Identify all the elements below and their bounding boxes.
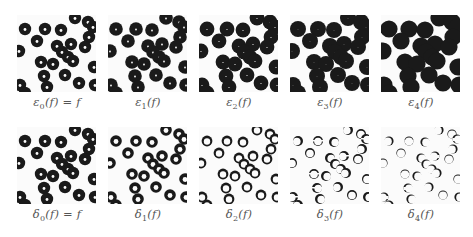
erosion-row-panel-0 (17, 15, 96, 92)
dilation-row-caption-4: δ4(f) (371, 207, 471, 223)
dilation-row-panel-0 (17, 127, 96, 204)
caption-argument: (f) (238, 95, 252, 109)
erosion-row-panel-3 (290, 15, 369, 92)
caption-argument: (f) (420, 95, 434, 109)
caption-argument: (f) = f (45, 207, 81, 221)
erosion-row-caption-1: ε1(f) (98, 95, 198, 111)
erosion-row-panel-1 (108, 15, 187, 92)
dilation-row-panel-2 (199, 127, 278, 204)
dilation-row-panel-1 (108, 127, 187, 204)
caption-argument: (f) (147, 207, 161, 221)
dilation-row-caption-3: δ3(f) (280, 207, 380, 223)
erosion-row-panel-2 (199, 15, 278, 92)
dilation-row-panel-4 (381, 127, 460, 204)
dilation-row-caption-1: δ1(f) (98, 207, 198, 223)
caption-symbol: δ (317, 207, 324, 221)
dilation-row-caption-2: δ2(f) (189, 207, 289, 223)
dilation-row-panel-3 (290, 127, 369, 204)
erosion-row-caption-2: ε2(f) (189, 95, 289, 111)
caption-argument: (f) (329, 207, 343, 221)
erosion-row-caption-3: ε3(f) (280, 95, 380, 111)
caption-argument: (f) (147, 95, 161, 109)
caption-symbol: δ (135, 207, 142, 221)
caption-argument: (f) (420, 207, 434, 221)
caption-symbol: δ (226, 207, 233, 221)
caption-symbol: δ (33, 207, 40, 221)
erosion-row-panel-4 (381, 15, 460, 92)
dilation-row-caption-0: δ0(f) = f (7, 207, 107, 223)
caption-argument: (f) (238, 207, 252, 221)
erosion-row-caption-4: ε4(f) (371, 95, 471, 111)
caption-argument: (f) = f (45, 95, 81, 109)
caption-symbol: δ (408, 207, 415, 221)
erosion-row-caption-0: ε0(f) = f (7, 95, 107, 111)
caption-argument: (f) (329, 95, 343, 109)
